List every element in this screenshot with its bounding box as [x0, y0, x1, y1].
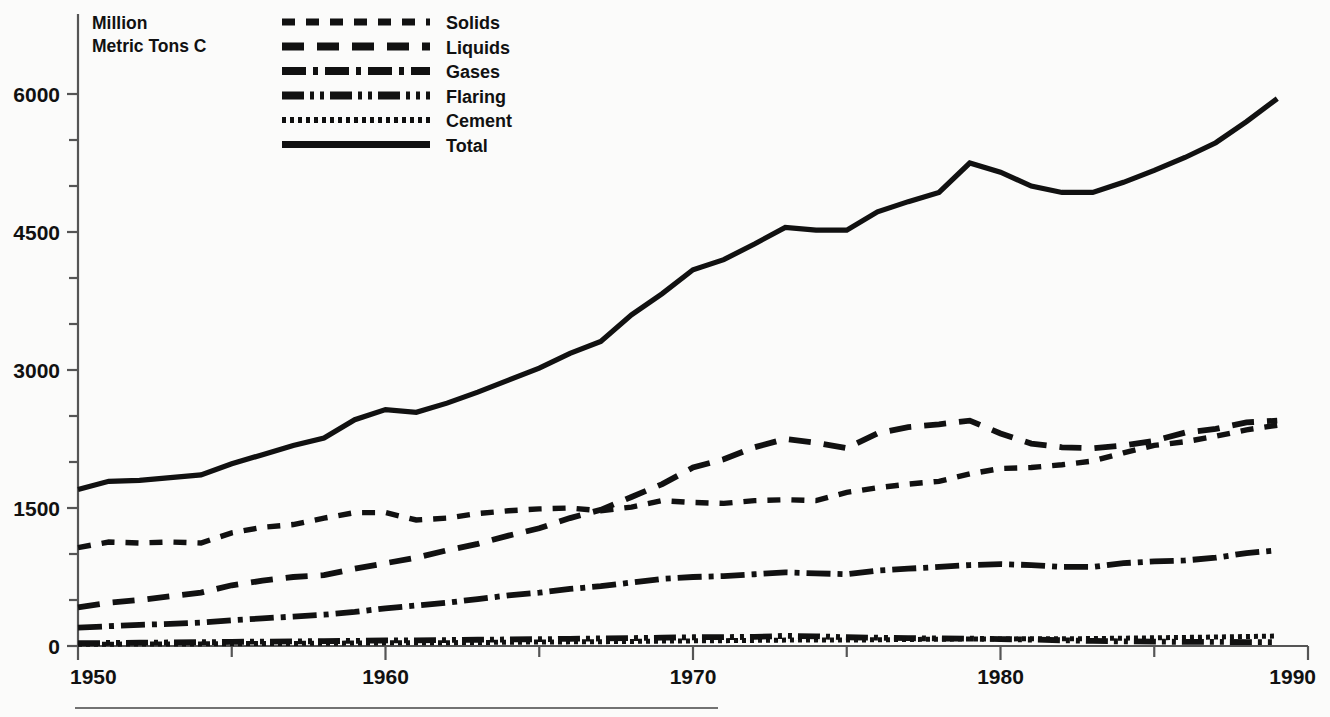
y-tick-label: 1500	[13, 497, 60, 520]
x-tick-label: 1990	[1269, 665, 1316, 688]
x-tick-label: 1950	[70, 665, 117, 688]
y-tick-label: 6000	[13, 83, 60, 106]
chart-background	[0, 0, 1330, 717]
legend-label-solids: Solids	[446, 13, 500, 33]
legend-label-cement: Cement	[446, 111, 512, 131]
chart-canvas: 01500300045006000 19501960197019801990 M…	[0, 0, 1330, 717]
legend-label-gases: Gases	[446, 62, 500, 82]
legend-label-flaring: Flaring	[446, 87, 506, 107]
legend-label-liquids: Liquids	[446, 38, 510, 58]
y-tick-label: 4500	[13, 221, 60, 244]
legend-label-total: Total	[446, 136, 488, 156]
y-axis-unit-label-line2: Metric Tons C	[92, 36, 207, 56]
emissions-line-chart: 01500300045006000 19501960197019801990 M…	[0, 0, 1330, 717]
y-tick-label: 0	[48, 635, 60, 658]
x-tick-label: 1980	[977, 665, 1024, 688]
y-axis-unit-label-line1: Million	[92, 13, 147, 33]
y-tick-label: 3000	[13, 359, 60, 382]
x-tick-label: 1960	[362, 665, 409, 688]
x-tick-label: 1970	[670, 665, 717, 688]
